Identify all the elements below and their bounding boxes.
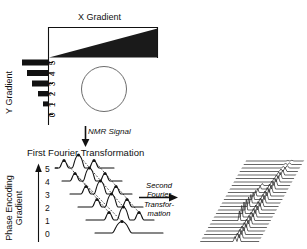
nmr-imaging-figure: X Gradient Y Gradient 5 4 3 2 1 0 NMR Si… — [0, 0, 307, 249]
first-fourier-transformation-label: First Fourier Transformation — [27, 148, 144, 158]
second-ft-line4: mation — [136, 209, 182, 218]
phase-tick-2: 2 — [45, 203, 50, 213]
y-tick-1: 1 — [47, 102, 57, 107]
second-ft-line2: Fourier — [136, 190, 182, 199]
phase-tick-0: 0 — [45, 229, 50, 239]
phase-tick-1: 1 — [45, 216, 50, 226]
phase-tick-3: 3 — [45, 190, 50, 200]
phase-encoding-label-line2: Gradient — [14, 175, 24, 241]
phase-encoding-gradient-label: Phase Encoding Gradient — [4, 175, 24, 241]
y-gradient-label: Y Gradient — [5, 71, 14, 114]
second-ft-line1: Second — [136, 181, 182, 190]
nmr-signal-label: NMR Signal — [88, 128, 131, 136]
y-tick-2: 2 — [47, 92, 57, 97]
second-ft-line3: Transfor- — [136, 200, 182, 209]
x-gradient-label: X Gradient — [78, 13, 121, 22]
y-tick-4: 4 — [47, 71, 57, 76]
phase-encoding-label-line1: Phase Encoding — [4, 175, 14, 241]
phase-tick-4: 4 — [45, 177, 50, 187]
y-tick-5: 5 — [47, 61, 57, 66]
y-tick-3: 3 — [47, 82, 57, 87]
phase-tick-5: 5 — [45, 164, 50, 174]
second-fourier-transformation-label: Second Fourier Transfor- mation — [136, 181, 182, 218]
y-tick-0: 0 — [47, 113, 57, 118]
